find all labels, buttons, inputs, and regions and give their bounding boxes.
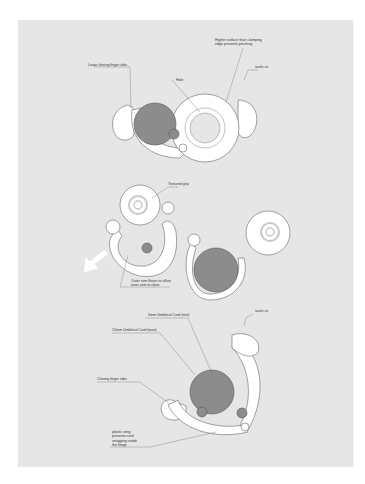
right-loop [162,202,174,214]
figure3-hinge [161,334,260,435]
grip-right [246,211,290,255]
figure1-clamp [113,94,257,162]
hinge-pin [179,144,187,152]
small-cord-2 [142,243,152,253]
label-hole: Hole [176,78,183,82]
top-left-grip [120,185,160,225]
left-finger-tab [113,105,134,140]
label-plastic-wing: plastic wing prevents cord snagging insi… [112,430,137,448]
cord-cross-section-2 [194,248,238,292]
label-outer-arm: Outer arm flexes to allow inner arm to c… [131,279,171,288]
label-textured-grip: Textured grip [168,182,189,186]
cord-cross-section [134,103,176,145]
small-cord [169,129,179,139]
label-cord-min: 5mm Umbilical Cord (min) [148,313,190,317]
label-cord-max: 15mm Umbilical Cord (max) [112,328,157,332]
label-closing-tabs: Closing finger tabs [97,377,127,381]
label-scale-1: scale xx [255,65,268,69]
cord-cross-section-3 [190,370,234,414]
right-finger-tab [238,100,257,138]
label-large-tabs: Large closing finger tabs [88,63,127,67]
hole-inner [190,113,220,143]
label-higher-surface: Higher surface than clamping edge preven… [215,38,262,47]
label-scale-3: scale xx [255,309,268,313]
hinge-pin-3 [241,423,249,431]
flex-arrow [84,250,108,272]
clamp-diagrams [0,0,365,484]
left-hinge-loop [106,220,120,234]
